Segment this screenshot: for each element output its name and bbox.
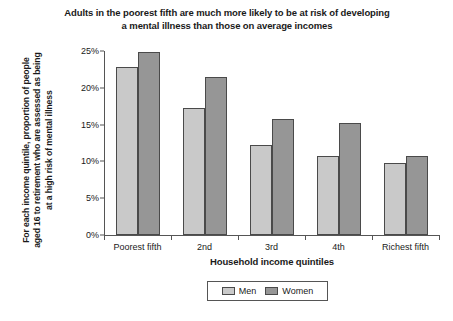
x-axis-tick-mark: [171, 236, 172, 240]
bar-men-poorest-fifth: [116, 67, 138, 235]
x-axis-title: Household income quintiles: [104, 256, 440, 267]
bar-men-richest-fifth: [384, 163, 406, 235]
legend-entry-men[interactable]: Men: [222, 286, 257, 296]
x-axis-tick-label: 3rd: [265, 242, 278, 252]
bar-men-2nd: [183, 108, 205, 235]
legend-label-men: Men: [239, 286, 257, 296]
y-axis-tick-mark: [100, 51, 104, 52]
x-axis-tick-label: 2nd: [197, 242, 212, 252]
y-axis-title: For each income quintile, proportion of …: [21, 50, 55, 250]
bar-men-4th: [317, 156, 339, 235]
x-axis-tick-mark: [238, 236, 239, 240]
bar-women-3rd: [272, 119, 294, 235]
x-axis-line: [104, 235, 440, 236]
x-axis-tick-label: 4th: [332, 242, 345, 252]
x-axis-tick-mark: [439, 236, 440, 240]
y-axis-tick-mark: [100, 87, 104, 88]
x-axis-tick-mark: [305, 236, 306, 240]
bar-women-poorest-fifth: [138, 52, 160, 235]
x-axis-tick-label: Poorest fifth: [113, 242, 161, 252]
plot-area: 0%5%10%15%20%25%Poorest fifth2nd3rd4thRi…: [104, 51, 439, 235]
bar-men-3rd: [250, 145, 272, 235]
bar-women-4th: [339, 123, 361, 235]
x-axis-tick-mark: [372, 236, 373, 240]
legend-swatch-men: [222, 287, 235, 295]
chart-legend: MenWomen: [207, 281, 328, 301]
chart-title: Adults in the poorest fifth are much mor…: [62, 6, 392, 32]
x-axis-tick-mark: [104, 236, 105, 240]
y-axis-tick-mark: [100, 161, 104, 162]
y-axis-tick-mark: [100, 198, 104, 199]
legend-label-women: Women: [282, 286, 313, 296]
bar-women-richest-fifth: [406, 156, 428, 235]
x-axis-tick-label: Richest fifth: [382, 242, 429, 252]
bar-women-2nd: [205, 77, 227, 235]
legend-swatch-women: [265, 287, 278, 295]
bar-chart: Adults in the poorest fifth are much mor…: [0, 0, 453, 321]
legend-entry-women[interactable]: Women: [265, 286, 313, 296]
y-axis-tick-mark: [100, 124, 104, 125]
